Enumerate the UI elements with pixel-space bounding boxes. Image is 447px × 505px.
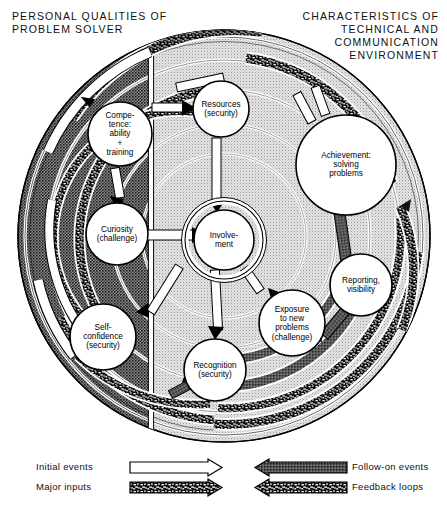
node-exposure[interactable] xyxy=(259,290,325,356)
legend-bars xyxy=(130,459,347,496)
header-left: PERSONAL QUALITIES OF PROBLEM SOLVER xyxy=(12,10,167,36)
node-resources[interactable] xyxy=(193,81,249,137)
legend-arrow-feedback-loops xyxy=(255,479,347,496)
motivation-wheel-diagram xyxy=(0,0,447,505)
legend-arrow-initial-events xyxy=(130,459,222,476)
legend-arrow-follow-on-events xyxy=(255,459,347,476)
legend-label-follow-on-events: Follow-on events xyxy=(352,461,429,472)
node-achievement[interactable] xyxy=(296,115,396,215)
legend-label-major-inputs: Major inputs xyxy=(36,481,91,492)
node-curiosity[interactable] xyxy=(86,203,148,265)
node-recognition[interactable] xyxy=(184,339,246,401)
legend-label-feedback-loops: Feedback loops xyxy=(352,481,423,492)
legend xyxy=(0,448,447,505)
legend-label-initial-events: Initial events xyxy=(36,461,93,472)
node-reporting[interactable] xyxy=(330,254,392,316)
header-right: CHARACTERISTICS OF TECHNICAL AND COMMUNI… xyxy=(303,10,439,62)
node-involvement[interactable] xyxy=(194,210,254,270)
node-selfconf[interactable] xyxy=(70,304,136,370)
node-competence[interactable] xyxy=(88,102,152,166)
legend-arrow-major-inputs xyxy=(130,479,222,496)
